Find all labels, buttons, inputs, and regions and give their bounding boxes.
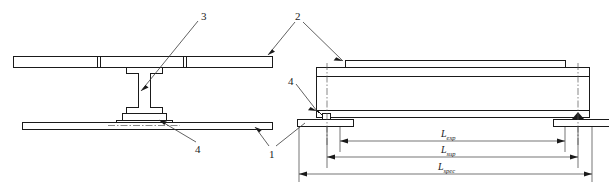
engineering-drawing-sheet: 3 4 1 2 4 Lexp Lsup Lspec bbox=[0, 0, 609, 193]
top-slab-section bbox=[13, 56, 272, 67]
elevation-view bbox=[297, 60, 609, 182]
callout-4-left-label: 4 bbox=[195, 143, 201, 155]
svg-text:Lexp: Lexp bbox=[440, 128, 456, 141]
dimension-label-spec: Lspec bbox=[437, 161, 455, 174]
callout-2-label: 2 bbox=[295, 10, 301, 22]
callout-3-label: 3 bbox=[201, 10, 207, 22]
elevation-beam-body bbox=[316, 67, 589, 117]
cross-section-view bbox=[13, 56, 272, 129]
bottom-slab-section bbox=[22, 122, 272, 129]
dim-exp-subscript: exp bbox=[447, 134, 457, 141]
callout-4-right-label: 4 bbox=[288, 75, 294, 87]
dim-sup-subscript: sup bbox=[447, 150, 457, 157]
dim-spec-subscript: spec bbox=[444, 167, 456, 174]
dimension-label-exp: Lexp bbox=[440, 128, 456, 141]
callout-1-label: 1 bbox=[269, 148, 275, 160]
svg-text:Lspec: Lspec bbox=[437, 161, 455, 174]
svg-text:Lsup: Lsup bbox=[440, 144, 456, 157]
dimension-label-sup: Lsup bbox=[440, 144, 456, 157]
steel-i-beam-section bbox=[126, 67, 162, 113]
